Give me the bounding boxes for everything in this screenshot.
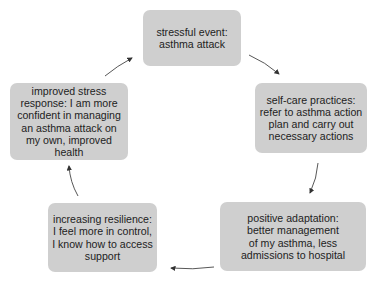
arrow-adaptation-to-resilience (171, 267, 214, 269)
arrow-improved-to-event (105, 58, 132, 76)
node-text-line: stressful event: (156, 26, 227, 38)
node-self-care: self-care practices: refer to asthma act… (255, 83, 367, 153)
node-text-line: I know how to access (52, 238, 153, 250)
node-text-line: support (52, 250, 153, 262)
node-text-line: confident in managing (17, 109, 121, 121)
node-text-line: health (17, 146, 121, 158)
node-text-line: increasing resilience: (52, 213, 153, 225)
node-text-line: self-care practices: (260, 94, 362, 106)
node-text-line: I feel more in control, (52, 225, 153, 237)
node-text-line: of my asthma, less (241, 237, 345, 249)
node-text-line: better management (241, 224, 345, 236)
arrow-event-to-selfcare (249, 55, 279, 74)
node-text-line: my own, improved (17, 134, 121, 146)
node-text-line: improved stress (17, 85, 121, 97)
node-text-line: response: I am more (17, 97, 121, 109)
node-text-line: refer to asthma action (260, 106, 362, 118)
node-text-line: plan and carry out (260, 118, 362, 130)
node-positive-adaptation: positive adaptation: better management o… (220, 202, 366, 271)
node-text-line: asthma attack (156, 38, 227, 50)
node-stressful-event: stressful event: asthma attack (143, 10, 241, 66)
node-text-line: admissions to hospital (241, 249, 345, 261)
node-text-line: necessary actions (260, 130, 362, 142)
arrow-resilience-to-improved (69, 166, 78, 196)
node-improved-stress-response: improved stress response: I am more conf… (10, 83, 128, 160)
node-increasing-resilience: increasing resilience: I feel more in co… (48, 203, 157, 272)
node-text-line: an asthma attack on (17, 122, 121, 134)
arrow-selfcare-to-adaptation (310, 163, 318, 193)
node-text-line: positive adaptation: (241, 212, 345, 224)
